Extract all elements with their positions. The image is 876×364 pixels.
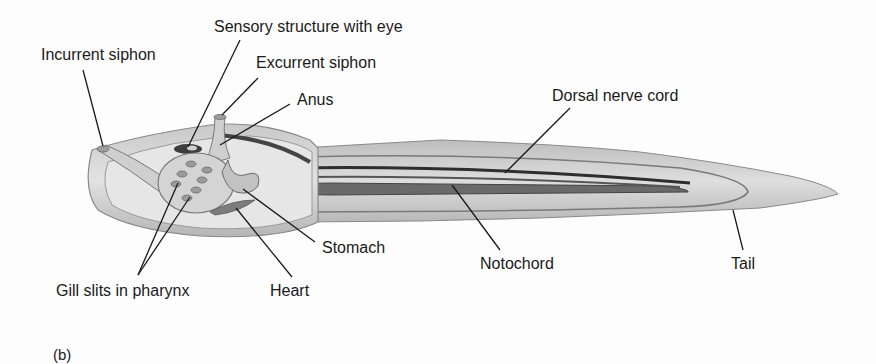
- label-gill-slits: Gill slits in pharynx: [56, 283, 189, 299]
- label-sensory-structure: Sensory structure with eye: [214, 19, 403, 35]
- label-notochord: Notochord: [480, 256, 554, 272]
- label-heart: Heart: [270, 283, 309, 299]
- label-incurrent-siphon: Incurrent siphon: [41, 47, 156, 63]
- label-anus: Anus: [297, 92, 333, 108]
- label-tail: Tail: [731, 256, 755, 272]
- label-excurrent-siphon: Excurrent siphon: [256, 55, 376, 71]
- label-stomach: Stomach: [322, 240, 385, 256]
- diagram-canvas: Sensory structure with eye Incurrent sip…: [0, 0, 876, 364]
- label-dorsal-nerve-cord: Dorsal nerve cord: [552, 88, 678, 104]
- panel-label: (b): [53, 347, 71, 362]
